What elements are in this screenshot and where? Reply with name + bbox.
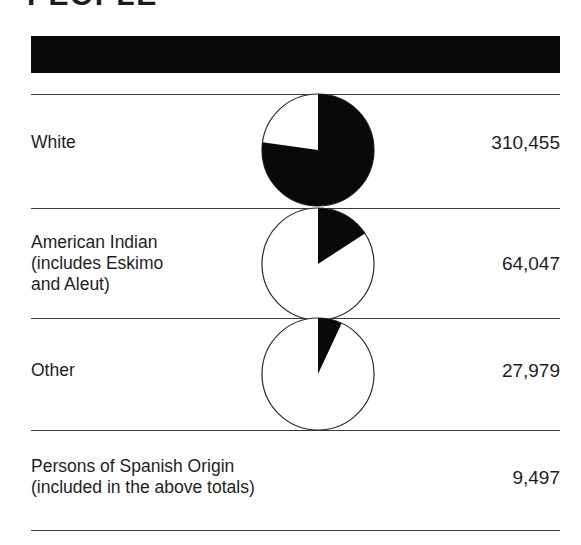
- row-value-other: 27,979: [360, 360, 560, 381]
- table-row: Persons of Spanish Origin (included in t…: [31, 430, 560, 530]
- table-row: Other 27,979: [31, 318, 560, 430]
- table-header-bar: [31, 36, 560, 73]
- row-label-white: White: [31, 132, 76, 153]
- row-label-american-indian: American Indian (includes Eskimo and Ale…: [31, 232, 163, 295]
- row-value-white: 310,455: [360, 132, 560, 153]
- pie-chart-american-indian: [260, 206, 376, 322]
- table-row: American Indian (includes Eskimo and Ale…: [31, 208, 560, 318]
- page-title: PEOPLE: [27, 0, 158, 8]
- row-label-spanish-origin: Persons of Spanish Origin (included in t…: [31, 456, 255, 498]
- pie-chart-other: [260, 316, 376, 432]
- table-row: White 310,455: [31, 94, 560, 208]
- row-value-spanish-origin: 9,497: [360, 467, 560, 488]
- table-rule-bottom: [31, 530, 560, 531]
- row-label-other: Other: [31, 360, 75, 381]
- row-value-american-indian: 64,047: [360, 253, 560, 274]
- pie-chart-white: [260, 92, 376, 208]
